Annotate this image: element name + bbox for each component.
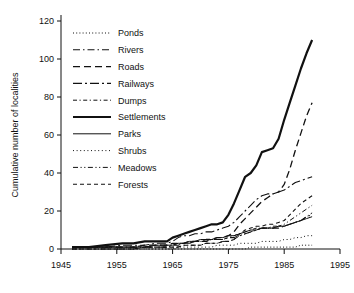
y-axis-title-text: Cumulative number of localities [10,72,20,198]
y-tick-label: 80 [44,92,54,102]
y-tick-label: 60 [44,130,54,140]
chart-legend: PondsRiversRoadsRailwaysDumpsSettlements… [73,28,166,189]
legend-label-railways: Railways [118,79,155,89]
x-axis-ticks: 194519551965197519851995 [51,249,350,270]
y-axis-ticks: 020406080100120 [39,16,61,254]
x-tick-label: 1945 [51,260,71,270]
x-tick-label: 1975 [218,260,238,270]
chart-figure: Cumulative number of localities 19451955… [0,0,354,293]
series-line-railways [72,177,312,247]
y-tick-label: 40 [44,168,54,178]
legend-label-settlements: Settlements [118,112,166,122]
legend-label-rivers: Rivers [118,45,144,55]
y-tick-label: 120 [39,16,54,26]
legend-label-ponds: Ponds [118,28,144,38]
x-tick-label: 1995 [330,260,350,270]
legend-label-dumps: Dumps [118,96,147,106]
x-tick-label: 1955 [107,260,127,270]
y-tick-label: 20 [44,206,54,216]
y-tick-label: 100 [39,54,54,64]
legend-label-roads: Roads [118,62,145,72]
y-tick-label: 0 [49,244,54,254]
series-line-roads [72,103,312,247]
x-tick-label: 1985 [274,260,294,270]
x-tick-label: 1965 [163,260,183,270]
legend-label-forests: Forests [118,180,149,190]
data-series-group [72,40,312,249]
legend-label-meadows: Meadows [118,163,157,173]
legend-label-shrubs: Shrubs [118,146,147,156]
series-line-settlements [72,40,312,247]
line-chart: Cumulative number of localities 19451955… [0,0,354,293]
legend-label-parks: Parks [118,129,142,139]
y-axis-title: Cumulative number of localities [10,72,20,198]
